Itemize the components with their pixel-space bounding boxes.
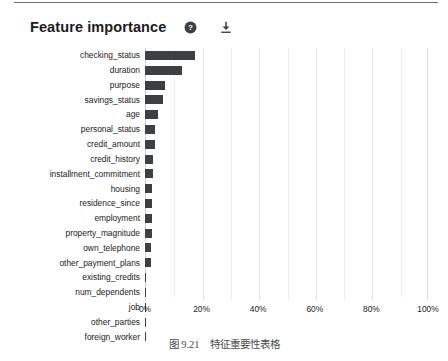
card-header: Feature importance ? [30,14,234,40]
bar-track [145,285,428,300]
bar[interactable] [145,273,146,282]
bar-row: own_telephone [14,241,438,256]
bar-row: property_magnitude [14,226,438,241]
bar-category-label: employment [14,214,140,222]
bar-row: installment_commitment [14,167,438,182]
bar[interactable] [145,140,155,149]
bar-category-label: duration [14,66,140,74]
bar-category-label: credit_history [14,155,140,163]
bar[interactable] [145,66,182,75]
bar-track [145,48,428,63]
bar-row: employment [14,211,438,226]
bar-category-label: job [14,303,140,311]
bar[interactable] [145,51,195,60]
bar-row: housing [14,181,438,196]
bar-category-label: credit_amount [14,140,140,148]
bar-category-label: installment_commitment [14,170,140,178]
bar[interactable] [145,288,146,297]
caption-text: 特征重要性表格 [210,339,280,350]
bar-rows: checking_statusdurationpurposesavings_st… [14,48,438,300]
bar-row: existing_credits [14,270,438,285]
bar-track [145,137,428,152]
bar-row: savings_status [14,92,438,107]
bar-row: age [14,107,438,122]
bar-category-label: property_magnitude [14,229,140,237]
bar-track [145,63,428,78]
caption-number: 图 9.21 [169,339,200,350]
bar-category-label: age [14,110,140,118]
top-divider [14,2,438,3]
bar[interactable] [145,169,153,178]
bar-track [145,270,428,285]
bar-category-label: existing_credits [14,273,140,281]
x-axis-tick-label: 100% [417,304,438,314]
bar-track [145,122,428,137]
bar-row: checking_status [14,48,438,63]
bar[interactable] [145,184,152,193]
x-axis-tick-label: 80% [363,304,380,314]
bar[interactable] [145,243,151,252]
download-icon[interactable] [218,19,234,35]
bar-category-label: own_telephone [14,244,140,252]
bar-category-label: housing [14,185,140,193]
bar[interactable] [145,199,152,208]
bar-row: residence_since [14,196,438,211]
bar[interactable] [145,155,153,164]
bar-track [145,107,428,122]
bar-track [145,196,428,211]
bar-track [145,181,428,196]
bar[interactable] [145,214,152,223]
x-axis-tick-label: 60% [306,304,323,314]
bar-track [145,241,428,256]
bar-row: personal_status [14,122,438,137]
bar-track [145,92,428,107]
bar-row: purpose [14,78,438,93]
bar[interactable] [145,229,152,238]
bar-row: credit_amount [14,137,438,152]
feature-importance-chart: checking_statusdurationpurposesavings_st… [14,44,438,324]
bar-track [145,255,428,270]
feature-importance-card: Feature importance ? checking_statusdura… [14,6,438,324]
bar[interactable] [145,125,155,134]
bar[interactable] [145,95,163,104]
help-icon[interactable]: ? [182,19,198,35]
bar-row: num_dependents [14,285,438,300]
bar-category-label: personal_status [14,125,140,133]
svg-text:?: ? [188,23,193,32]
bar-category-label: checking_status [14,51,140,59]
bar-category-label: purpose [14,81,140,89]
bar-category-label: other_parties [14,318,140,326]
bar-track [145,78,428,93]
bar[interactable] [145,81,165,90]
bar-track [145,167,428,182]
bar-category-label: num_dependents [14,288,140,296]
figure-caption: 图 9.21特征重要性表格 [0,336,448,351]
bar[interactable] [145,258,151,267]
x-axis-tick-label: 20% [193,304,210,314]
x-axis-tick-label: 40% [250,304,267,314]
bar-category-label: savings_status [14,96,140,104]
bar-row: credit_history [14,152,438,167]
page-title: Feature importance [30,19,166,35]
bar[interactable] [145,110,158,119]
bar-category-label: residence_since [14,199,140,207]
x-axis-tick-label: 0% [139,304,151,314]
bar-track [145,226,428,241]
figure-page: Feature importance ? checking_statusdura… [0,0,448,361]
bar-track [145,152,428,167]
x-axis: 0%20%40%60%80%100% [145,300,428,320]
bar-row: duration [14,63,438,78]
bar-category-label: other_payment_plans [14,259,140,267]
bar-track [145,211,428,226]
bar-row: other_payment_plans [14,255,438,270]
